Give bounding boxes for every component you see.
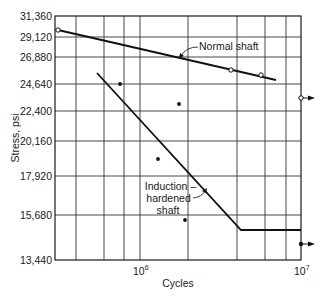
x-axis-label: Cycles	[162, 277, 194, 289]
plot-frame	[55, 16, 301, 260]
y-tick: 17,920	[20, 170, 52, 182]
x-tick-1e6: 106	[133, 264, 149, 277]
y-tick: 15,680	[20, 209, 52, 221]
y-tick: 26,880	[20, 51, 52, 63]
sn-chart: 31,360 29,120 26,880 24,640 22,400 20,16…	[0, 0, 325, 297]
y-tick: 24,640	[20, 78, 52, 90]
y-tick: 20,160	[20, 135, 52, 147]
induction-hardened-curve	[97, 73, 301, 230]
induction-runout-arrow-icon	[303, 242, 315, 247]
y-tick: 31,360	[20, 10, 52, 22]
normal-runout-arrow-icon	[303, 96, 315, 101]
y-tick-labels: 31,360 29,120 26,880 24,640 22,400 20,16…	[20, 10, 52, 266]
normal-shaft-leader-icon	[181, 47, 198, 56]
vertical-gridlines	[76, 16, 286, 260]
y-axis-label: Stress, psi	[9, 113, 21, 162]
x-tick-1e7: 107	[294, 264, 310, 277]
y-tick: 13,440	[20, 254, 52, 266]
y-tick: 22,400	[20, 105, 52, 117]
normal-shaft-label: Normal shaft	[199, 40, 259, 52]
induction-hardened-label: Induction – hardened shaft	[145, 180, 199, 216]
normal-shaft-curve	[58, 30, 276, 80]
induction-hardened-points	[118, 82, 303, 246]
y-tick: 29,120	[20, 31, 52, 43]
